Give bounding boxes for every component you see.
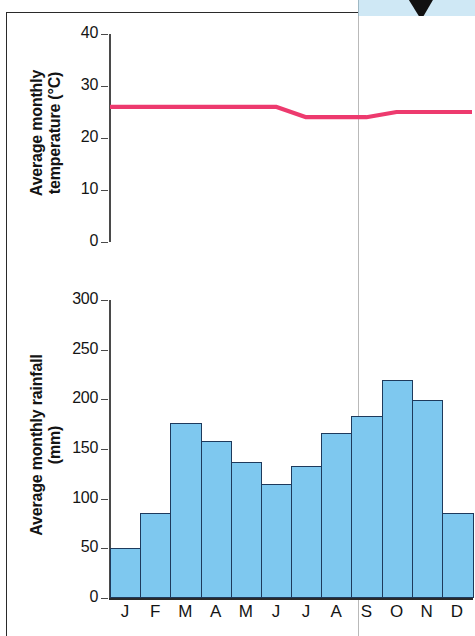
rainfall-bar xyxy=(321,433,353,598)
temperature-line-svg xyxy=(110,34,472,242)
rainfall-bar xyxy=(231,462,263,598)
rainfall-bar xyxy=(140,513,172,598)
rainfall-bar xyxy=(351,416,383,598)
temperature-chart: Average monthly temperature (°C) 0102030… xyxy=(0,0,474,260)
month-label: J xyxy=(110,602,140,622)
rainfall-tick xyxy=(101,300,108,301)
month-label: J xyxy=(291,602,321,622)
rainfall-tick-label: 50 xyxy=(48,538,98,556)
month-label: A xyxy=(321,602,351,622)
temperature-tick-label: 10 xyxy=(52,180,98,198)
rainfall-tick-label: 100 xyxy=(48,489,98,507)
month-label: M xyxy=(231,602,261,622)
temperature-tick xyxy=(101,138,108,139)
month-label: M xyxy=(170,602,200,622)
temperature-plot-area xyxy=(110,34,472,242)
rainfall-bar xyxy=(382,380,414,598)
rainfall-baseline xyxy=(109,598,473,600)
rainfall-tick-label: 0 xyxy=(48,588,98,606)
rainfall-chart: Average monthly rainfall (mm) 0501001502… xyxy=(0,260,474,636)
rainfall-bar xyxy=(442,513,474,598)
month-label: A xyxy=(201,602,231,622)
temperature-tick xyxy=(101,86,108,87)
rainfall-plot-area xyxy=(110,300,472,598)
rainfall-bar xyxy=(110,548,142,598)
temperature-tick xyxy=(101,242,108,243)
month-label: D xyxy=(442,602,472,622)
rainfall-tick-label: 300 xyxy=(48,290,98,308)
temperature-tick xyxy=(101,190,108,191)
temperature-tick-label: 20 xyxy=(52,128,98,146)
month-label: J xyxy=(261,602,291,622)
rainfall-tick xyxy=(101,548,108,549)
rainfall-tick-label: 200 xyxy=(48,389,98,407)
rainfall-tick-label: 150 xyxy=(48,439,98,457)
temperature-line xyxy=(110,107,472,117)
temperature-tick-label: 0 xyxy=(52,232,98,250)
rainfall-bar xyxy=(170,423,202,598)
rainfall-bar xyxy=(412,400,444,598)
rainfall-tick xyxy=(101,598,108,599)
month-label: O xyxy=(382,602,412,622)
month-label: N xyxy=(412,602,442,622)
rainfall-tick xyxy=(101,350,108,351)
rainfall-bar xyxy=(291,466,323,598)
rainfall-tick xyxy=(101,499,108,500)
rainfall-bar xyxy=(261,484,293,598)
temperature-tick-label: 40 xyxy=(52,24,98,42)
temperature-tick xyxy=(101,34,108,35)
month-label: F xyxy=(140,602,170,622)
rainfall-tick xyxy=(101,449,108,450)
rainfall-tick-label: 250 xyxy=(48,340,98,358)
month-label: S xyxy=(351,602,381,622)
temperature-tick-label: 30 xyxy=(52,76,98,94)
rainfall-axis-title-line1: Average monthly rainfall xyxy=(28,354,45,535)
temperature-axis-title-line1: Average monthly xyxy=(28,70,45,196)
rainfall-tick xyxy=(101,399,108,400)
rainfall-bar xyxy=(201,441,233,598)
